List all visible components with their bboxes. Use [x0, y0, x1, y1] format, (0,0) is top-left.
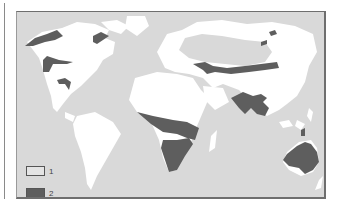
world-map-graphic: [17, 12, 326, 199]
legend-label-1: 1: [49, 168, 53, 176]
south-america: [73, 112, 121, 190]
page-margin-rule: [4, 3, 5, 199]
world-map: 1 2: [16, 11, 326, 199]
category-2-southern-africa: [161, 138, 193, 172]
category-2-png-islet: [301, 128, 305, 136]
legend-swatch-2: [26, 188, 45, 198]
legend-item-1: 1: [26, 154, 53, 176]
legend-label-2: 2: [49, 190, 53, 198]
legend-item-2: 2: [26, 176, 53, 198]
legend-swatch-1: [26, 166, 45, 176]
category-2-south-asia: [231, 92, 269, 116]
legend: 1 2: [26, 154, 53, 198]
